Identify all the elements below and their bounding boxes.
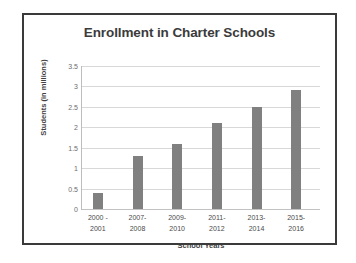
x-axis-tick-label-line: 2016 (279, 224, 313, 235)
x-axis-tick-label-line: 2013- (240, 213, 274, 224)
gridline (82, 66, 320, 67)
gridline (82, 107, 320, 108)
bar (291, 90, 301, 209)
y-axis-title: Students (in millions) (39, 48, 48, 148)
x-axis-tick-label-line: 2015- (279, 213, 313, 224)
y-axis-tick-label: 2.5 (54, 103, 78, 110)
y-axis-tick-label: 3 (54, 83, 78, 90)
x-axis-tick-label-line: 2009- (160, 213, 194, 224)
x-axis-tick-label: 2000 -2001 (81, 213, 115, 234)
x-axis-tick-label: 2009-2010 (160, 213, 194, 234)
gridline (82, 168, 320, 169)
gridline (82, 148, 320, 149)
x-axis-tick-label-line: 2012 (200, 224, 234, 235)
bar (133, 156, 143, 209)
bar (93, 193, 103, 209)
gridline (82, 86, 320, 87)
x-axis-tick-label-line: 2008 (121, 224, 155, 235)
bar (172, 144, 182, 209)
chart-frame: Enrollment in Charter Schools Students (… (22, 13, 337, 245)
y-axis-tick-label: 1 (54, 165, 78, 172)
y-axis-tick-label: 3.5 (54, 63, 78, 70)
x-axis-title: School Years (82, 241, 320, 250)
x-axis-tick-label-line: 2000 - (81, 213, 115, 224)
y-axis-tick-label: 2 (54, 124, 78, 131)
gridline (82, 127, 320, 128)
y-axis-tick-labels: 3.532.521.510.50 (52, 66, 78, 209)
x-axis-tick-label-line: 2001 (81, 224, 115, 235)
x-axis-tick-label-line: 2011- (200, 213, 234, 224)
bar (252, 107, 262, 209)
chart-title: Enrollment in Charter Schools (24, 25, 335, 40)
y-axis-tick-label: 0 (54, 206, 78, 213)
gridline (82, 189, 320, 190)
x-axis-tick-label: 2011-2012 (200, 213, 234, 234)
x-axis-tick-label-line: 2010 (160, 224, 194, 235)
x-axis-tick-label: 2015-2016 (279, 213, 313, 234)
x-axis-tick-label-line: 2014 (240, 224, 274, 235)
x-axis-tick-label: 2007-2008 (121, 213, 155, 234)
x-axis-tick-labels: 2000 -20012007-20082009-20102011-2012201… (82, 213, 320, 239)
y-axis-tick-label: 1.5 (54, 144, 78, 151)
x-axis-tick-label-line: 2007- (121, 213, 155, 224)
gridline (82, 209, 320, 210)
bar (212, 123, 222, 209)
y-axis-tick-label: 0.5 (54, 185, 78, 192)
plot-area (82, 66, 320, 209)
x-axis-tick-label: 2013-2014 (240, 213, 274, 234)
